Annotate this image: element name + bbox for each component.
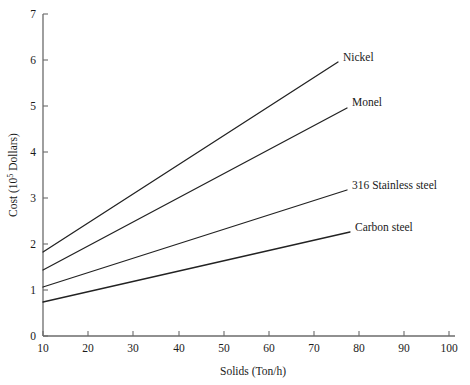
y-axis-title-main: Cost (10 (7, 177, 20, 217)
y-tick-label-7: 7 (30, 8, 36, 20)
cost-vs-solids-chart: 0 1 2 3 4 5 6 7 10 20 30 40 50 (0, 0, 470, 385)
y-axis-title-tail: Dollars) (7, 133, 20, 174)
x-axis-title: Solids (Ton/h) (220, 365, 286, 378)
x-axis-tick-labels: 10 20 30 40 50 60 70 80 90 100 (37, 342, 458, 354)
x-tick-label-30: 30 (127, 342, 139, 354)
series-line-carbon-steel (43, 232, 350, 302)
y-tick-label-1: 1 (30, 284, 36, 296)
series-line-nickel (43, 62, 338, 252)
series-label-monel: Monel (352, 96, 382, 108)
x-tick-label-20: 20 (82, 342, 94, 354)
x-tick-label-40: 40 (173, 342, 185, 354)
series-label-nickel: Nickel (343, 51, 374, 63)
x-tick-label-70: 70 (308, 342, 320, 354)
y-axis-title: Cost (105 Dollars) (6, 133, 20, 217)
series-label-carbon-steel: Carbon steel (355, 221, 413, 233)
series-line-monel (43, 108, 347, 270)
y-axis-ticks (43, 14, 48, 336)
series-line-316-stainless-steel (43, 190, 347, 287)
y-tick-label-0: 0 (30, 330, 36, 342)
series-labels: Nickel Monel 316 Stainless steel Carbon … (343, 51, 437, 233)
x-tick-label-80: 80 (353, 342, 365, 354)
series-lines (43, 62, 350, 302)
x-tick-label-100: 100 (440, 342, 458, 354)
y-tick-label-3: 3 (30, 192, 36, 204)
y-tick-label-2: 2 (30, 238, 36, 250)
y-tick-label-5: 5 (30, 100, 36, 112)
x-tick-label-60: 60 (263, 342, 275, 354)
y-axis-tick-labels: 0 1 2 3 4 5 6 7 (30, 8, 36, 342)
x-tick-label-10: 10 (37, 342, 49, 354)
x-axis-ticks (43, 331, 449, 336)
y-tick-label-6: 6 (30, 54, 36, 66)
x-tick-label-50: 50 (218, 342, 230, 354)
series-label-316-stainless-steel: 316 Stainless steel (352, 179, 437, 191)
y-tick-label-4: 4 (30, 146, 36, 158)
chart-svg: 0 1 2 3 4 5 6 7 10 20 30 40 50 (0, 0, 470, 385)
x-tick-label-90: 90 (398, 342, 410, 354)
